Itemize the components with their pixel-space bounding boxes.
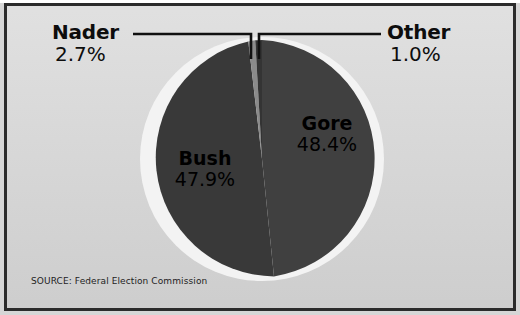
slice-name-bush: Bush	[150, 148, 260, 168]
callout-name-other: Other	[387, 22, 450, 43]
slice-percent-bush: 47.9%	[150, 169, 260, 189]
callout-percent-other: 1.0%	[390, 44, 450, 65]
slice-label-gore: Gore 48.4%	[272, 113, 382, 154]
slice-name-gore: Gore	[272, 113, 382, 133]
callout-label-other: Other 1.0%	[387, 22, 450, 65]
slice-label-bush: Bush 47.9%	[150, 148, 260, 189]
callout-percent-nader: 2.7%	[55, 44, 119, 65]
pie-chart-figure: Nader 2.7% Other 1.0% Bush 47.9% Gore 48…	[0, 0, 520, 315]
slice-percent-gore: 48.4%	[272, 134, 382, 154]
callout-name-nader: Nader	[52, 22, 119, 43]
source-note: SOURCE: Federal Election Commission	[31, 276, 207, 286]
callout-label-nader: Nader 2.7%	[52, 22, 119, 65]
